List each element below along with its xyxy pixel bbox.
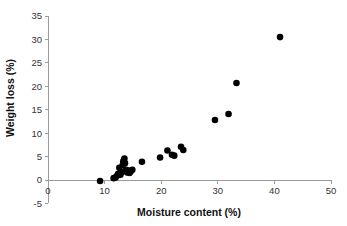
- x-axis-tick-label: 20: [156, 185, 167, 196]
- y-axis-tick-label: 0: [37, 174, 42, 185]
- y-axis-tick-label: 10: [31, 128, 42, 139]
- data-point: [157, 154, 164, 161]
- y-axis-tick-label: 25: [31, 57, 42, 68]
- data-point: [139, 158, 146, 165]
- data-point: [129, 166, 136, 173]
- x-axis-tick-label: 50: [326, 185, 337, 196]
- y-axis-tick-label: -5: [34, 198, 42, 209]
- scatter-chart: -505101520253035 01020304050 Moisture co…: [0, 0, 347, 226]
- data-point: [171, 152, 178, 159]
- x-axis-tick-label: 40: [269, 185, 280, 196]
- y-axis-tick-label: 30: [31, 34, 42, 45]
- y-axis-tick-label: 15: [31, 104, 42, 115]
- data-point: [97, 178, 104, 185]
- y-axis-title: Weight loss (%): [4, 59, 16, 137]
- x-axis-title: Moisture content (%): [137, 206, 241, 218]
- y-axis-tick-label: 5: [37, 151, 42, 162]
- y-axis: -505101520253035: [31, 10, 48, 208]
- chart-canvas: -505101520253035 01020304050 Moisture co…: [0, 0, 347, 226]
- data-points: [97, 34, 284, 184]
- data-point: [225, 111, 232, 118]
- data-point: [212, 117, 219, 124]
- x-axis-tick-label: 0: [45, 185, 50, 196]
- x-axis-tick-label: 10: [99, 185, 110, 196]
- data-point: [180, 147, 187, 154]
- x-axis: 01020304050: [45, 180, 336, 196]
- data-point: [122, 160, 129, 167]
- data-point: [233, 80, 240, 87]
- y-axis-tick-label: 35: [31, 10, 42, 21]
- data-point: [277, 34, 284, 41]
- y-axis-tick-label: 20: [31, 81, 42, 92]
- x-axis-tick-label: 30: [213, 185, 224, 196]
